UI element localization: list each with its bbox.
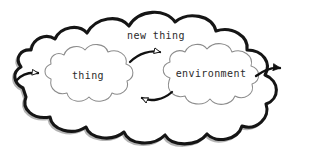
inner-cloud-thing-label: thing bbox=[72, 70, 104, 81]
inner-cloud-environment-label: environment bbox=[176, 68, 247, 79]
cloud-diagram-svg: new thing thing environment bbox=[0, 0, 309, 154]
inner-cloud-thing: thing bbox=[45, 45, 133, 102]
outer-cloud-label: new thing bbox=[127, 30, 185, 41]
inner-cloud-environment: environment bbox=[163, 44, 258, 105]
diagram-canvas: new thing thing environment bbox=[0, 0, 309, 154]
